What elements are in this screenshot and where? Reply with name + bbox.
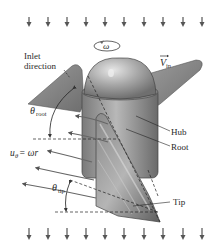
arrowhead-icon [65, 235, 70, 240]
arrowhead-icon [142, 235, 147, 240]
arrowhead-icon [161, 235, 166, 240]
root-label: Root [171, 142, 189, 152]
arrowhead-icon [181, 22, 186, 27]
propeller-blade-diagram: ω V in Inlet direction [0, 0, 214, 250]
omega-label: ω [103, 41, 109, 51]
hub-dome [84, 58, 156, 99]
theta-tip-label: θ tip [52, 182, 65, 194]
hub-label: Hub [171, 127, 187, 137]
outlet-flow-arrows [27, 228, 205, 240]
arrowhead-icon [27, 235, 32, 240]
theta-root-label: θ root [30, 105, 47, 117]
svg-text:θ: θ [30, 105, 35, 116]
tip-label: Tip [173, 197, 186, 207]
inlet-direction-label-line1: Inlet [24, 51, 41, 61]
theta-tip-arc [66, 182, 71, 210]
arrowhead-icon [46, 235, 51, 240]
svg-text:root: root [36, 110, 47, 117]
arrowhead-icon [142, 22, 147, 27]
arrowhead-icon [46, 22, 51, 27]
inlet-direction-label-line2: direction [24, 61, 56, 71]
svg-text:θ: θ [52, 182, 57, 193]
arrowhead-icon [103, 22, 108, 27]
arrowhead-icon [103, 235, 108, 240]
inlet-flow-arrows [27, 17, 205, 27]
left-wing [28, 65, 84, 112]
arrowhead-icon [84, 235, 89, 240]
v-in-label: V in [160, 55, 172, 69]
svg-text:= ωr: = ωr [19, 148, 38, 158]
svg-text:tip: tip [58, 187, 65, 194]
arrowhead-icon [122, 22, 127, 27]
arrowhead-icon [161, 22, 166, 27]
u-theta-label: u θ = ωr [10, 148, 38, 159]
arrowhead-icon [122, 235, 127, 240]
arrowhead-icon [65, 22, 70, 27]
arrowhead-icon [200, 235, 205, 240]
arrowhead-icon [84, 22, 89, 27]
arrowhead-icon [181, 235, 186, 240]
arrowhead-icon [200, 22, 205, 27]
arrowhead-icon [27, 22, 32, 27]
